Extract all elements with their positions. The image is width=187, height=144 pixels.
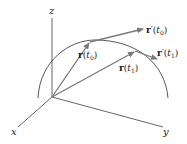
- label-r-t1: r(t1): [119, 63, 138, 74]
- vector-diagram: z x y r(t0) r(t1) r′(t0) r′(t1): [0, 0, 187, 144]
- label-r-t0: r(t0): [78, 50, 97, 61]
- z-axis-label: z: [48, 5, 55, 16]
- x-axis-label: x: [11, 126, 17, 137]
- label-rprime-t1: r′(t1): [157, 48, 178, 59]
- vector-rprime-t0: [90, 29, 143, 42]
- label-rprime-t0: r′(t0): [146, 25, 167, 36]
- x-axis: [18, 97, 52, 127]
- vector-rprime-t1: [135, 51, 157, 59]
- y-axis-label: y: [162, 126, 169, 137]
- y-axis: [52, 97, 163, 127]
